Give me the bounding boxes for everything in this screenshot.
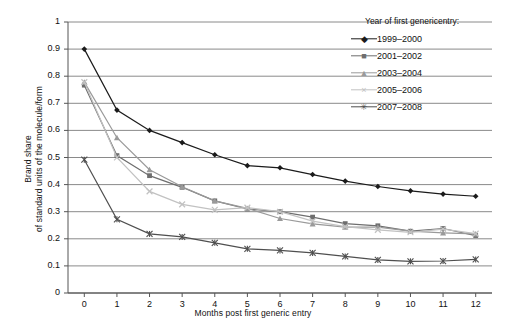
legend-symbol-diamond-icon: ◆ xyxy=(361,34,368,43)
legend-marker-icon: × xyxy=(351,84,377,96)
diamond-marker xyxy=(310,172,316,178)
legend-symbol-asterisk-icon: ✳ xyxy=(360,102,368,111)
y-tick-label: 1 xyxy=(26,16,60,26)
legend-item-2001-2002[interactable]: ■2001–2002 xyxy=(351,47,501,64)
x-tick-label: 4 xyxy=(203,299,227,309)
x-tick-label: 8 xyxy=(333,299,357,309)
data-point-diamond xyxy=(179,140,185,146)
x-tick-label: 12 xyxy=(464,299,488,309)
diamond-marker xyxy=(408,188,414,194)
data-point-diamond xyxy=(310,172,316,178)
data-point-asterisk xyxy=(114,216,120,222)
y-tick-label: 0.1 xyxy=(26,260,60,270)
x-tick-label: 1 xyxy=(105,299,129,309)
legend-item-2005-2006[interactable]: ×2005–2006 xyxy=(351,81,501,98)
data-point-asterisk xyxy=(81,157,87,163)
x-axis-title: Months post first generic entry xyxy=(0,308,506,318)
diamond-marker xyxy=(82,46,88,52)
data-point-diamond xyxy=(440,191,446,197)
data-point-diamond xyxy=(473,193,479,199)
data-point-cross xyxy=(147,188,153,194)
data-point-diamond xyxy=(82,46,88,52)
x-tick-label: 10 xyxy=(398,299,422,309)
data-point-diamond xyxy=(245,163,251,169)
y-tick-label: 0.5 xyxy=(26,152,60,162)
data-point-diamond xyxy=(147,128,153,134)
legend-marker-icon: ■ xyxy=(351,50,377,62)
legend-label: 2003–2004 xyxy=(377,68,422,78)
legend-entries: ◆1999–2000■2001–2002▲2003–2004×2005–2006… xyxy=(351,30,501,115)
diamond-marker xyxy=(114,107,120,113)
diamond-marker xyxy=(212,152,218,158)
x-tick-label: 5 xyxy=(235,299,259,309)
x-tick-label: 0 xyxy=(72,299,96,309)
x-tick-label: 6 xyxy=(268,299,292,309)
legend-label: 2005–2006 xyxy=(377,85,422,95)
y-tick-label: 0.6 xyxy=(26,124,60,134)
y-tick-label: 0.2 xyxy=(26,233,60,243)
diamond-marker xyxy=(179,140,185,146)
brand-share-line-chart: Brand share of standard units of the mol… xyxy=(0,0,506,329)
diamond-marker xyxy=(342,178,348,184)
diamond-marker xyxy=(245,163,251,169)
legend-marker-icon: ✳ xyxy=(351,101,377,113)
x-tick-label: 2 xyxy=(138,299,162,309)
data-point-diamond xyxy=(114,107,120,113)
y-tick-label: 0.8 xyxy=(26,70,60,80)
data-point-triangle xyxy=(114,135,120,141)
legend-symbol-square-icon: ■ xyxy=(361,51,366,60)
legend: Year of first genericentry: ◆1999–2000■2… xyxy=(351,16,501,115)
legend-label: 2007–2008 xyxy=(377,102,422,112)
diamond-marker xyxy=(277,165,283,171)
y-tick-label: 0 xyxy=(26,287,60,297)
x-tick-label: 9 xyxy=(366,299,390,309)
legend-title: Year of first genericentry: xyxy=(351,16,501,26)
x-tick-label: 3 xyxy=(170,299,194,309)
data-point-square xyxy=(147,173,152,178)
legend-item-1999-2000[interactable]: ◆1999–2000 xyxy=(351,30,501,47)
diamond-marker xyxy=(147,128,153,134)
data-point-diamond xyxy=(277,165,283,171)
x-tick-label: 11 xyxy=(431,299,455,309)
legend-symbol-triangle-icon: ▲ xyxy=(360,68,369,77)
legend-item-2003-2004[interactable]: ▲2003–2004 xyxy=(351,64,501,81)
legend-symbol-cross-icon: × xyxy=(361,85,366,94)
triangle-marker xyxy=(114,135,120,141)
legend-marker-icon: ▲ xyxy=(351,67,377,79)
legend-marker-icon: ◆ xyxy=(351,33,377,45)
square-marker xyxy=(147,173,152,178)
y-tick-label: 0.3 xyxy=(26,206,60,216)
legend-label: 2001–2002 xyxy=(377,51,422,61)
legend-label: 1999–2000 xyxy=(377,34,422,44)
y-tick-label: 0.9 xyxy=(26,43,60,53)
x-tick-label: 7 xyxy=(301,299,325,309)
y-tick-label: 0.4 xyxy=(26,179,60,189)
y-tick-label: 0.7 xyxy=(26,97,60,107)
diamond-marker xyxy=(440,191,446,197)
data-point-diamond xyxy=(212,152,218,158)
data-point-diamond xyxy=(408,188,414,194)
diamond-marker xyxy=(473,193,479,199)
legend-item-2007-2008[interactable]: ✳2007–2008 xyxy=(351,98,501,115)
data-point-diamond xyxy=(342,178,348,184)
